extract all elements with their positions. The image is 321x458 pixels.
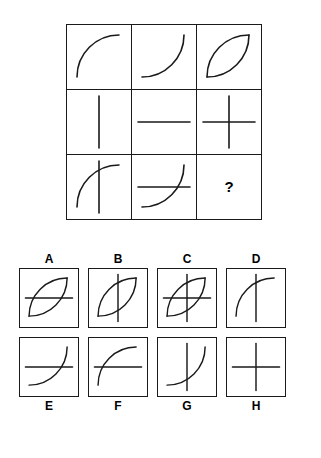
stroke-figure [67,90,131,154]
stroke-figure [158,269,216,327]
option-F[interactable]: F [87,337,149,414]
option-label-B: B [114,252,123,267]
stroke-figure [132,155,196,219]
cell-2-2 [132,90,197,155]
matrix-grid: ? [66,24,258,216]
arc-upper-left-stroke [77,165,119,207]
option-B[interactable]: B [87,252,149,328]
option-box-H[interactable] [226,337,286,397]
question-mark: ? [224,178,233,195]
option-C[interactable]: C [156,252,218,328]
cell-3-2 [132,155,197,220]
options-row-top: ABCD [18,252,304,328]
matrix-row-3: ? [67,155,262,220]
stroke-figure [227,338,285,396]
stroke-figure [67,25,131,89]
cell-1-1 [67,25,132,90]
matrix-row-2 [67,90,262,155]
option-label-H: H [252,399,261,414]
options-row-bottom: EFGH [18,337,304,414]
option-label-E: E [45,399,53,414]
stroke-figure [197,25,261,89]
option-label-D: D [252,252,261,267]
option-H[interactable]: H [225,337,287,414]
arc-lower-right-stroke [167,347,205,385]
arc-lower-right-stroke [142,35,184,77]
stroke-figure [89,269,147,327]
cell-2-3 [197,90,262,155]
arc-lower-right-stroke [29,347,67,385]
matrix-table: ? [66,24,262,220]
stroke-figure [20,269,78,327]
arc-upper-left-stroke [98,347,136,385]
option-G[interactable]: G [156,337,218,414]
stroke-figure [197,90,261,154]
option-box-B[interactable] [88,268,148,328]
option-label-A: A [45,252,54,267]
option-label-G: G [182,399,191,414]
cell-3-1 [67,155,132,220]
option-E[interactable]: E [18,337,80,414]
option-box-D[interactable] [226,268,286,328]
stroke-figure [132,25,196,89]
matrix-row-1 [67,25,262,90]
option-label-F: F [114,399,121,414]
option-box-A[interactable] [19,268,79,328]
stroke-figure [132,90,196,154]
stroke-figure [89,338,147,396]
cell-1-3 [197,25,262,90]
arc-upper-left-stroke [236,278,274,316]
option-box-F[interactable] [88,337,148,397]
stroke-figure [158,338,216,396]
option-A[interactable]: A [18,252,80,328]
stroke-figure [67,155,131,219]
option-box-G[interactable] [157,337,217,397]
option-box-C[interactable] [157,268,217,328]
arc-upper-left-stroke [77,35,119,77]
cell-3-3: ? [197,155,262,220]
answer-options: ABCD EFGH [18,252,304,414]
cell-1-2 [132,25,197,90]
option-label-C: C [183,252,192,267]
stroke-figure [227,269,285,327]
matrix-body: ? [67,25,262,220]
option-box-E[interactable] [19,337,79,397]
stroke-figure [20,338,78,396]
cell-2-1 [67,90,132,155]
option-D[interactable]: D [225,252,287,328]
arc-lower-right-stroke [142,165,184,207]
